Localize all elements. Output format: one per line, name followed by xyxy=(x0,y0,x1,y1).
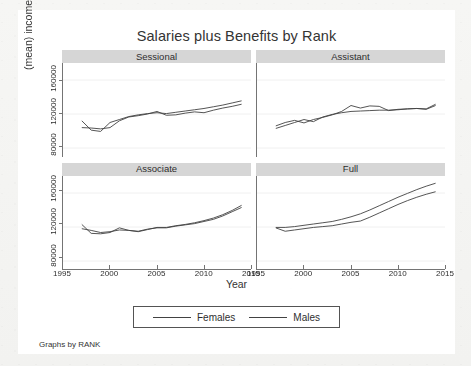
panel-full: Full xyxy=(256,163,445,271)
page-title: Salaries plus Benefits by Rank xyxy=(18,28,455,44)
series-line-females xyxy=(276,191,436,231)
y-tick-mark xyxy=(59,223,63,224)
x-tick-mark xyxy=(303,265,304,269)
series-line-males xyxy=(82,101,242,132)
y-tick-label: 160000 xyxy=(49,172,58,206)
x-tick-label: 2005 xyxy=(147,269,167,278)
series-line-females xyxy=(82,207,242,233)
plot-svg-full xyxy=(257,176,445,270)
panel-grid: Sessional Assistant Associate xyxy=(62,50,445,265)
x-tick-mark xyxy=(109,265,110,269)
graph-card: Salaries plus Benefits by Rank (mean) in… xyxy=(18,10,455,354)
footnote: Graphs by RANK xyxy=(39,340,100,349)
plot-svg-sessional xyxy=(63,63,251,157)
y-tick-label: 120000 xyxy=(49,205,58,239)
legend-label-females: Females xyxy=(197,312,235,323)
x-tick-label: 2000 xyxy=(293,269,313,278)
series-line-females xyxy=(82,104,242,129)
y-tick-mark xyxy=(59,113,63,114)
legend: Females Males xyxy=(133,306,340,328)
x-tick-label: 2015 xyxy=(435,269,455,278)
panel-header-sessional: Sessional xyxy=(62,50,251,63)
series-line-males xyxy=(82,205,242,232)
x-tick-label: 2010 xyxy=(194,269,214,278)
plot-svg-associate xyxy=(63,176,251,270)
series-line-males xyxy=(276,104,436,128)
plot-svg-assistant xyxy=(257,63,445,157)
panel-sessional: Sessional xyxy=(62,50,251,157)
plot-area-full xyxy=(256,176,445,271)
x-tick-mark xyxy=(351,265,352,269)
y-tick-mark xyxy=(59,257,63,258)
x-axis-title: Year xyxy=(18,278,455,290)
y-tick-label: 120000 xyxy=(49,94,58,128)
x-tick-label: 1995 xyxy=(246,269,266,278)
plot-area-associate xyxy=(62,176,251,271)
x-tick-label: 2005 xyxy=(341,269,361,278)
y-axis-title: (mean) income xyxy=(22,0,34,100)
legend-label-males: Males xyxy=(293,312,320,323)
legend-entry-males: Males xyxy=(249,312,320,323)
panel-associate: Associate xyxy=(62,163,251,271)
y-tick-label: 80000 xyxy=(49,128,58,162)
x-tick-label: 1995 xyxy=(52,269,72,278)
y-tick-label: 160000 xyxy=(49,61,58,95)
y-tick-mark xyxy=(59,190,63,191)
x-tick-mark xyxy=(251,265,252,269)
panel-header-full: Full xyxy=(256,163,445,176)
series-line-males xyxy=(276,183,436,227)
panel-header-associate: Associate xyxy=(62,163,251,176)
legend-line-icon-females xyxy=(153,317,191,318)
plot-area-sessional xyxy=(62,63,251,157)
x-tick-mark xyxy=(256,265,257,269)
x-tick-label: 2010 xyxy=(388,269,408,278)
plot-area-assistant xyxy=(256,63,445,157)
legend-entry-females: Females xyxy=(153,312,235,323)
x-tick-mark xyxy=(157,265,158,269)
screenshot-root: Salaries plus Benefits by Rank (mean) in… xyxy=(0,0,471,366)
legend-line-icon-males xyxy=(249,317,287,318)
y-tick-mark xyxy=(59,80,63,81)
x-tick-mark xyxy=(204,265,205,269)
panel-assistant: Assistant xyxy=(256,50,445,157)
x-tick-mark xyxy=(398,265,399,269)
x-tick-label: 2000 xyxy=(99,269,119,278)
y-tick-mark xyxy=(59,146,63,147)
y-tick-label: 80000 xyxy=(49,238,58,272)
x-tick-mark xyxy=(445,265,446,269)
x-tick-mark xyxy=(62,265,63,269)
panel-header-assistant: Assistant xyxy=(256,50,445,63)
